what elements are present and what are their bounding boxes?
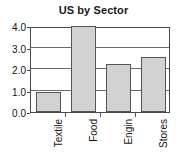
x-label-stores: Stores: [158, 119, 169, 148]
y-tick-2.0: [27, 70, 30, 71]
bar-chart: US by Sector 0.01.02.03.04.0 TextileFood…: [0, 0, 187, 168]
x-axis-labels: TextileFoodEnginStores: [0, 0, 187, 168]
y-tick-0.0: [27, 113, 30, 114]
y-tick-3.0: [27, 49, 30, 50]
x-label-food: Food: [88, 119, 99, 142]
x-label-engin: Engin: [123, 119, 134, 145]
x-label-textile: Textile: [53, 119, 64, 147]
y-tick-1.0: [27, 92, 30, 93]
y-tick-4.0: [27, 27, 30, 28]
